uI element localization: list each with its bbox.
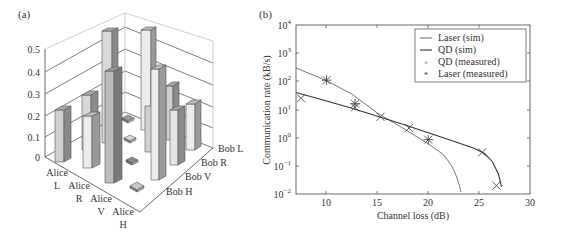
bar	[55, 106, 71, 162]
z-tick-label: 0.2	[28, 111, 41, 122]
z-tick-label: 0.4	[28, 67, 41, 78]
tile	[124, 135, 136, 143]
alice-label-state: L	[54, 180, 60, 191]
legend: Laser (sim) QD (sim) × QD (measured) * L…	[415, 29, 526, 82]
x-axis-label: Channel loss (dB)	[377, 210, 449, 222]
tile	[130, 182, 144, 192]
star-marker-icon	[322, 75, 332, 85]
alice-label-state: H	[119, 219, 126, 230]
x-marker-icon	[405, 124, 413, 132]
bob-label: Bob R	[201, 157, 227, 168]
y-axis-label: Communication rate (kB/s)	[261, 55, 273, 164]
svg-text:100: 100	[278, 131, 292, 144]
svg-text:101: 101	[278, 103, 292, 116]
bar	[186, 100, 201, 150]
y-tick: 10−2	[274, 187, 292, 200]
y-tick: 100	[278, 131, 292, 144]
y-tick: 103	[278, 46, 292, 59]
z-axis: 0.5 0.4 0.3 0.2 0.1 0	[28, 44, 46, 163]
svg-text:Laser (sim): Laser (sim)	[438, 32, 484, 44]
alice-label-state: R	[76, 193, 83, 204]
svg-text:Laser (measured): Laser (measured)	[438, 68, 508, 80]
svg-text:QD (measured): QD (measured)	[438, 56, 500, 68]
tile	[126, 157, 138, 165]
z-tick-label: 0	[35, 152, 40, 163]
bob-label: Bob V	[185, 171, 212, 182]
star-marker-icon: *	[424, 71, 428, 80]
svg-text:QD (sim): QD (sim)	[438, 44, 476, 56]
x-tick-label: 15	[372, 197, 382, 208]
alice-label-name: Alice	[90, 193, 112, 204]
tile	[122, 115, 134, 123]
y-tick: 104	[278, 18, 292, 31]
line-qd-sim	[296, 93, 502, 187]
svg-text:104: 104	[278, 18, 292, 31]
y-tick: 101	[278, 103, 292, 116]
y-tick: 102	[278, 74, 292, 87]
svg-text:103: 103	[278, 46, 292, 59]
svg-text:102: 102	[278, 74, 292, 87]
bar	[170, 106, 185, 165]
panel-b: (b) 104 103 102 101 100 10−1 10	[259, 8, 535, 222]
y-tick: 10−1	[274, 159, 292, 172]
line-laser-sim	[296, 68, 461, 192]
alice-label-name: Alice	[112, 206, 134, 217]
figure: (a) 0.5 0.4 0.3 0.2	[0, 0, 561, 235]
series-layer	[296, 68, 502, 192]
x-tick-label: 20	[423, 197, 433, 208]
z-tick-label: 0.5	[28, 44, 41, 55]
x-tick-label: 10	[321, 197, 331, 208]
alice-label-name: Alice	[68, 180, 90, 191]
svg-text:10−1: 10−1	[274, 159, 292, 172]
panel-b-label: (b)	[259, 8, 272, 21]
x-marker-icon	[478, 148, 486, 156]
star-marker-icon	[423, 135, 433, 145]
x-marker-icon	[297, 94, 305, 102]
bar	[83, 112, 100, 168]
x-marker-icon: ×	[424, 59, 428, 67]
bob-label: Bob H	[166, 186, 192, 197]
alice-label-state: V	[97, 206, 105, 217]
bar	[105, 67, 122, 183]
star-marker-icon	[350, 99, 360, 109]
panel-a: (a) 0.5 0.4 0.3 0.2	[18, 8, 243, 230]
panel-a-label: (a)	[18, 8, 31, 21]
x-tick-label: 30	[525, 197, 535, 208]
z-tick-label: 0.1	[28, 132, 41, 143]
svg-text:10−2: 10−2	[274, 187, 292, 200]
bar	[151, 65, 166, 180]
alice-label-name: Alice	[46, 167, 68, 178]
z-tick-label: 0.3	[28, 89, 41, 100]
x-marker-icon	[492, 182, 500, 190]
bars	[55, 27, 201, 192]
x-tick-label: 25	[474, 197, 484, 208]
bob-label: Bob L	[218, 143, 243, 154]
